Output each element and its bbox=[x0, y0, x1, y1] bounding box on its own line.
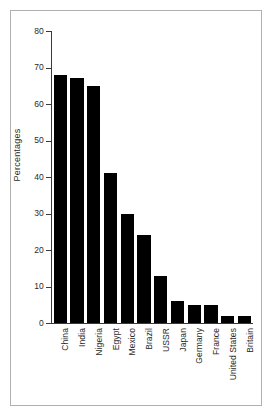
bar-slot bbox=[153, 31, 170, 323]
y-tick-mark bbox=[46, 323, 51, 324]
y-tick-label: 70 bbox=[14, 63, 44, 72]
y-tick-mark bbox=[46, 31, 51, 32]
y-tick-label: 10 bbox=[14, 282, 44, 291]
y-tick-label-text: 20 bbox=[18, 246, 44, 255]
bar[interactable] bbox=[171, 301, 184, 323]
bar[interactable] bbox=[121, 214, 134, 324]
bar[interactable] bbox=[70, 78, 83, 323]
bar[interactable] bbox=[221, 316, 234, 323]
bar[interactable] bbox=[238, 316, 251, 323]
x-tick-label-text: Britain bbox=[245, 328, 255, 353]
y-tick-label-text: 80 bbox=[18, 27, 44, 36]
x-tick-label: Mexico bbox=[119, 325, 136, 405]
x-tick-label: Brazil bbox=[136, 325, 153, 405]
bar-series bbox=[52, 31, 253, 323]
bar-slot bbox=[236, 31, 253, 323]
x-axis-tick-labels: ChinaIndiaNigeriaEgyptMexicoBrazilUSSRJa… bbox=[52, 325, 253, 405]
bar[interactable] bbox=[137, 235, 150, 323]
x-tick-label: India bbox=[69, 325, 86, 405]
y-tick-label: 60 bbox=[14, 100, 44, 109]
bar-slot bbox=[86, 31, 103, 323]
y-tick-label: 30 bbox=[14, 209, 44, 218]
bar-slot bbox=[203, 31, 220, 323]
bar[interactable] bbox=[154, 276, 167, 323]
x-tick-label: France bbox=[203, 325, 220, 405]
bar-slot bbox=[169, 31, 186, 323]
y-tick-label-text: 70 bbox=[18, 63, 44, 72]
bar-slot bbox=[220, 31, 237, 323]
y-tick-mark bbox=[46, 177, 51, 178]
x-tick-label: China bbox=[52, 325, 69, 405]
y-tick-mark bbox=[46, 250, 51, 251]
y-tick-label: 0 bbox=[14, 319, 44, 328]
y-tick-label-text: 60 bbox=[18, 100, 44, 109]
x-tick-label: Japan bbox=[169, 325, 186, 405]
bar-slot bbox=[52, 31, 69, 323]
y-tick-label-text: 0 bbox=[18, 319, 44, 328]
bar[interactable] bbox=[54, 75, 67, 323]
x-tick-label: Nigeria bbox=[86, 325, 103, 405]
bar[interactable] bbox=[87, 86, 100, 323]
y-tick-mark bbox=[46, 141, 51, 142]
x-tick-label: USSR bbox=[153, 325, 170, 405]
x-tick-label: Germany bbox=[186, 325, 203, 405]
bar[interactable] bbox=[204, 305, 217, 323]
figure: 01020304050607080 Percentages ChinaIndia… bbox=[0, 0, 273, 416]
bar[interactable] bbox=[104, 173, 117, 323]
y-tick-label: 80 bbox=[14, 27, 44, 36]
y-tick-label: 20 bbox=[14, 246, 44, 255]
bar-slot bbox=[119, 31, 136, 323]
bar-slot bbox=[102, 31, 119, 323]
bar[interactable] bbox=[188, 305, 201, 323]
y-tick-label-text: 30 bbox=[18, 209, 44, 218]
y-tick-label-text: 10 bbox=[18, 282, 44, 291]
bar-slot bbox=[69, 31, 86, 323]
y-tick-mark bbox=[46, 214, 51, 215]
x-tick-label: United States bbox=[220, 325, 237, 405]
y-tick-mark bbox=[46, 68, 51, 69]
bar-chart-plot: 01020304050607080 Percentages ChinaIndia… bbox=[0, 0, 273, 416]
x-axis-line bbox=[51, 323, 253, 324]
y-axis-title: Percentages bbox=[12, 110, 22, 200]
y-tick-mark bbox=[46, 287, 51, 288]
y-tick-mark bbox=[46, 104, 51, 105]
bar-slot bbox=[136, 31, 153, 323]
x-tick-label: Egypt bbox=[102, 325, 119, 405]
bar-slot bbox=[186, 31, 203, 323]
x-tick-label: Britain bbox=[236, 325, 253, 405]
